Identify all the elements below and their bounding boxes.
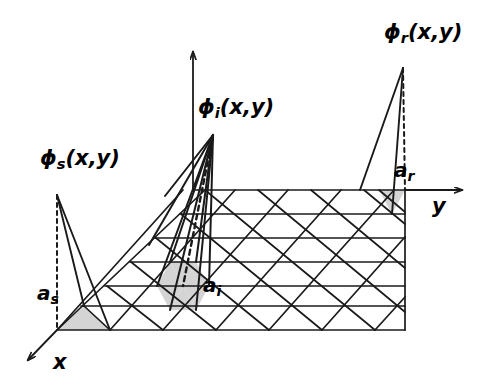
mesh-diag-a-5 xyxy=(269,190,394,330)
label-axis-y: y xyxy=(432,196,446,217)
diagram-canvas xyxy=(0,0,490,387)
mesh-diag-b-6 xyxy=(205,190,375,330)
label-node-ar: ar xyxy=(394,160,414,183)
mesh-grid xyxy=(57,190,460,330)
label-phi-i: ϕi(x,y) xyxy=(198,97,274,121)
mesh-diag-a-1 xyxy=(57,190,183,330)
label-node-ai: ai xyxy=(203,275,221,298)
label-axis-x: x xyxy=(53,352,67,373)
label-phi-r: ϕr(x,y) xyxy=(384,22,462,46)
fem-basis-figure: ϕs(x,y) ϕi(x,y) ϕr(x,y) as ai ar x y xyxy=(0,0,490,387)
label-phi-s: ϕs(x,y) xyxy=(40,148,120,172)
mesh-diag-a-4 xyxy=(216,190,341,330)
label-node-as: as xyxy=(37,283,59,306)
mesh-diag-a-7 xyxy=(375,297,405,330)
mesh-diag-a-6 xyxy=(322,237,405,330)
